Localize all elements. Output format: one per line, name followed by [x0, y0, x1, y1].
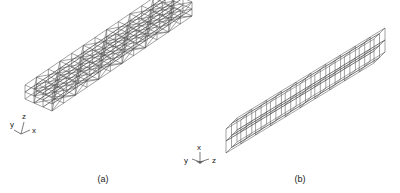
caption-a: (a): [98, 174, 109, 184]
axis-triad-a: y z x: [10, 112, 36, 135]
triad-b-origin-marker: [196, 161, 204, 164]
mesh-b-wireframe: [226, 28, 385, 153]
triad-b-label-z: z: [212, 156, 216, 165]
caption-b: (b): [295, 174, 306, 184]
mesh-a-width-edge: [25, 99, 52, 111]
axis-triad-b: y x z: [184, 143, 216, 165]
figure-canvas: y z x y x z (a) (b): [0, 0, 400, 193]
triad-a-label-y: y: [10, 120, 14, 129]
triad-b-label-y: y: [184, 156, 188, 165]
triad-a-x-axis: [21, 130, 30, 134]
triad-a-z-axis: [21, 122, 24, 134]
triad-a-label-x: x: [32, 126, 36, 135]
triad-a-y-axis: [14, 130, 21, 134]
triad-b-label-x: x: [197, 143, 201, 152]
mesh-a-wireframe: [25, 0, 192, 111]
triad-a-label-z: z: [22, 112, 26, 121]
